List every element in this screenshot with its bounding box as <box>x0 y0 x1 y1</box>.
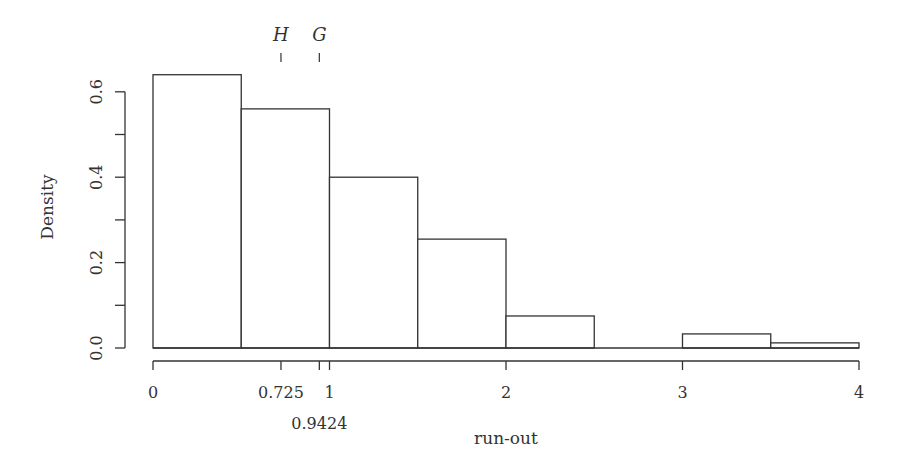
x-axis: 00.7250.94241234 <box>148 361 864 433</box>
x-axis-label: run-out <box>474 428 538 448</box>
x-tick-label: 0.725 <box>258 383 304 402</box>
histogram-bars <box>153 75 859 348</box>
histogram-bar <box>506 316 594 348</box>
y-tick-label: 0.2 <box>87 250 106 275</box>
histogram-bar <box>683 334 771 348</box>
x-tick-label: 3 <box>677 383 687 402</box>
y-tick-label: 0.0 <box>87 335 106 360</box>
annotation-label: H <box>272 24 289 45</box>
annotation-label: G <box>312 24 326 45</box>
y-axis: 0.00.20.40.6 <box>87 79 125 361</box>
y-tick-label: 0.6 <box>87 79 106 104</box>
x-tick-label: 2 <box>501 383 511 402</box>
histogram-bar <box>771 343 859 348</box>
x-tick-label: 0.9424 <box>291 414 347 433</box>
y-axis-label: Density <box>37 174 57 240</box>
y-tick-label: 0.4 <box>87 164 106 189</box>
histogram-bar <box>153 75 241 348</box>
histogram-bar <box>418 239 506 348</box>
histogram-bar <box>241 109 329 348</box>
top-annotations: HG <box>272 24 326 62</box>
x-tick-label: 1 <box>324 383 334 402</box>
histogram-chart: 0.00.20.40.6 00.7250.94241234 HG Density… <box>0 0 900 470</box>
x-tick-label: 4 <box>854 383 864 402</box>
x-tick-label: 0 <box>148 383 158 402</box>
histogram-bar <box>330 177 418 348</box>
